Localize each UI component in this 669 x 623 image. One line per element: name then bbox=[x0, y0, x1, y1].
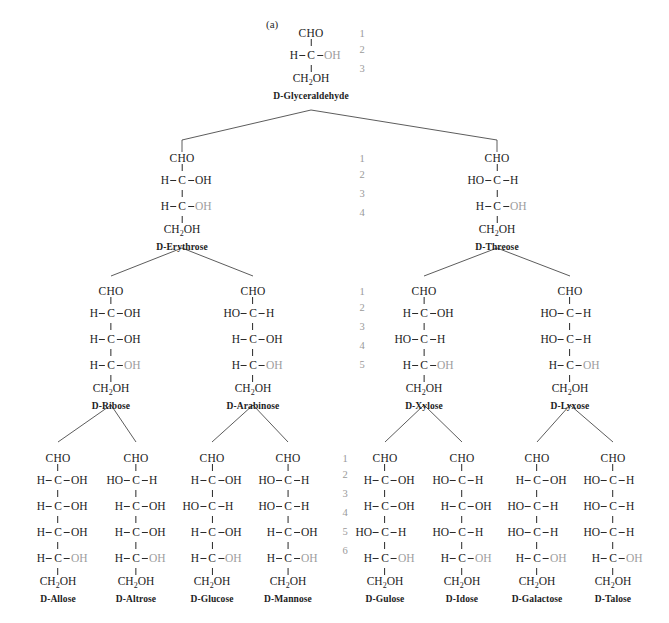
stereocenter-row: HOCH bbox=[264, 497, 312, 516]
aldehyde-group-label: CHO bbox=[227, 285, 280, 297]
fischer-projection-d-xylose: CHOHCOHHOCHHCOHCH2OHD-Xylose bbox=[405, 285, 443, 411]
fischer-projection-d-talose: CHOHOCHHOCHHOCHHCOHCH2OHD-Talose bbox=[595, 452, 632, 604]
carbon-atom: C bbox=[206, 497, 219, 516]
aldehyde-group-label: CHO bbox=[551, 285, 590, 297]
substituent-left: HO bbox=[223, 304, 240, 323]
hydroxymethyl-group-label: CH2OH bbox=[264, 575, 312, 592]
carbon-atom: C bbox=[246, 356, 259, 375]
carbon-atom: C bbox=[105, 304, 118, 323]
vertical-bond bbox=[444, 542, 481, 549]
stereocenter-row: HOCH bbox=[595, 523, 632, 542]
vertical-bond bbox=[595, 568, 632, 575]
stereocenter-row: HCOH bbox=[551, 356, 590, 375]
vertical-bond bbox=[512, 542, 563, 549]
stereocenter-row: HCOH bbox=[40, 523, 77, 542]
substituent-right: OH bbox=[195, 171, 212, 190]
bond-right bbox=[430, 339, 436, 340]
bond-right bbox=[188, 206, 194, 207]
carbon-atom: C bbox=[129, 549, 142, 568]
bond-right bbox=[619, 506, 625, 507]
vertical-bond bbox=[366, 568, 405, 575]
substituent-right: OH bbox=[71, 471, 88, 490]
stereocenter-row: HOCH bbox=[227, 304, 280, 323]
substituent-left: H bbox=[441, 549, 449, 568]
fischer-projection-d-mannose: CHOHOCHHOCHHCOHHCOHCH2OHD-Mannose bbox=[264, 452, 312, 604]
carbon-number: 1 bbox=[355, 152, 369, 165]
vertical-bond bbox=[116, 542, 156, 549]
bond-right bbox=[468, 532, 474, 533]
vertical-bond bbox=[92, 323, 130, 330]
carbon-number: 2 bbox=[355, 165, 369, 184]
connector-line bbox=[311, 110, 497, 140]
stereocenter-row: HCOH bbox=[116, 523, 156, 542]
stereocenter-row: HCOH bbox=[156, 171, 208, 190]
vertical-bond bbox=[40, 516, 77, 523]
substituent-right: OH bbox=[301, 549, 318, 568]
aldehyde-group-label: CHO bbox=[190, 452, 233, 464]
bond-right bbox=[503, 206, 509, 207]
fischer-projection-d-glucose: CHOHCOHHOCHHCOHHCOHCH2OHD-Glucose bbox=[190, 452, 233, 604]
substituent-left: HO bbox=[106, 471, 123, 490]
substituent-left: H bbox=[191, 549, 199, 568]
molecule-name-d-xylose: D-Xylose bbox=[405, 401, 443, 411]
vertical-bond bbox=[227, 375, 280, 382]
substituent-right: OH bbox=[437, 304, 454, 323]
carbon-atom: C bbox=[530, 497, 543, 516]
bond-right bbox=[543, 506, 549, 507]
substituent-right: H bbox=[149, 471, 157, 490]
stereocenter-row: HCOH bbox=[273, 46, 348, 65]
substituent-left: H bbox=[161, 171, 169, 190]
carbon-atom: C bbox=[282, 497, 295, 516]
vertical-bond bbox=[444, 464, 481, 471]
bond-right bbox=[64, 532, 70, 533]
vertical-bond bbox=[405, 375, 443, 382]
carbon-atom: C bbox=[418, 356, 431, 375]
vertical-bond bbox=[264, 490, 312, 497]
vertical-bond bbox=[551, 323, 590, 330]
vertical-bond bbox=[264, 464, 312, 471]
molecule-name-d-lyxose: D-Lyxose bbox=[551, 401, 590, 411]
stereocenter-row: HCOH bbox=[366, 549, 405, 568]
vertical-bond bbox=[190, 568, 233, 575]
carbon-number: 1 bbox=[338, 452, 352, 465]
vertical-bond bbox=[190, 542, 233, 549]
stereocenter-row: HCOH bbox=[405, 356, 443, 375]
stereocenter-row: HOCH bbox=[595, 471, 632, 490]
substituent-left: HO bbox=[467, 171, 484, 190]
bond-right bbox=[391, 480, 397, 481]
carbon-atom: C bbox=[282, 523, 295, 542]
bond-right bbox=[117, 313, 123, 314]
aldehyde-group-label: CHO bbox=[40, 452, 77, 464]
bond-right bbox=[391, 506, 397, 507]
vertical-bond bbox=[227, 349, 280, 356]
carbon-atom: C bbox=[206, 523, 219, 542]
carbon-atom: C bbox=[105, 330, 118, 349]
stereocenter-row: HOCH bbox=[512, 497, 563, 516]
carbon-number: 1 bbox=[355, 285, 369, 298]
substituent-left: HO bbox=[432, 471, 449, 490]
stereocenter-row: HOCH bbox=[512, 523, 563, 542]
molecule-name-d-glyceraldehyde: D-Glyceraldehyde bbox=[273, 91, 348, 101]
carbon-atom: C bbox=[530, 471, 543, 490]
carbon-numbering-pentose: 12345 bbox=[355, 285, 369, 374]
stereocenter-row: HCOH bbox=[156, 197, 208, 216]
substituent-left: H bbox=[267, 549, 275, 568]
substituent-left: HO bbox=[540, 330, 557, 349]
stereocenter-row: HCOH bbox=[116, 549, 156, 568]
carbon-atom: C bbox=[176, 197, 189, 216]
carbon-number: 6 bbox=[338, 541, 352, 560]
carbon-atom: C bbox=[530, 523, 543, 542]
vertical-bond bbox=[366, 542, 405, 549]
substituent-right: H bbox=[398, 523, 406, 542]
bond-right bbox=[294, 532, 300, 533]
bond-right bbox=[503, 180, 509, 181]
carbon-number: 2 bbox=[338, 465, 352, 484]
substituent-left: H bbox=[37, 497, 45, 516]
carbon-atom: C bbox=[606, 549, 619, 568]
substituent-right: OH bbox=[398, 497, 415, 516]
aldehyde-group-label: CHO bbox=[444, 452, 481, 464]
substituent-left: HO bbox=[507, 523, 524, 542]
vertical-bond bbox=[366, 516, 405, 523]
carbon-numbering-triose: 123 bbox=[355, 27, 369, 78]
bond-right bbox=[576, 339, 582, 340]
